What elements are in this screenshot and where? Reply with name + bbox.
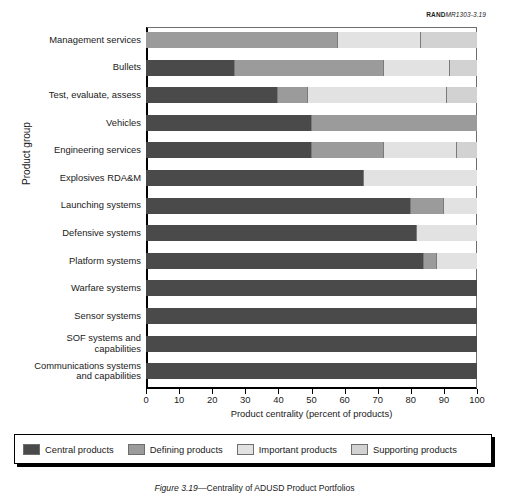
legend-item[interactable]: Important products bbox=[237, 444, 337, 455]
bar-segment-defining bbox=[235, 60, 384, 76]
bar-segment-important bbox=[364, 170, 477, 186]
bar-segment-supporting bbox=[457, 142, 477, 158]
figure-caption-label: Figure 3.19 bbox=[154, 483, 197, 493]
legend-swatch-central bbox=[23, 444, 40, 455]
y-axis-tick-label: SOF systems andcapabilities bbox=[0, 333, 146, 354]
bar-segment-central bbox=[146, 280, 477, 296]
bar-segment-central bbox=[146, 308, 477, 324]
legend-item[interactable]: Defining products bbox=[128, 444, 223, 455]
y-axis-tick-label: Platform systems bbox=[0, 256, 146, 267]
bar-segment-defining bbox=[312, 142, 385, 158]
bar-segment-supporting bbox=[450, 60, 476, 76]
legend-label: Supporting products bbox=[373, 444, 457, 455]
bar-row bbox=[146, 198, 477, 214]
x-axis-tick-label: 50 bbox=[306, 394, 316, 405]
y-axis-tick-label: Communications systemsand capabilities bbox=[0, 361, 146, 382]
x-axis-tick-label: 80 bbox=[406, 394, 416, 405]
bar-segment-central bbox=[146, 253, 424, 269]
legend-label: Important products bbox=[259, 444, 337, 455]
x-axis-tick-label: 90 bbox=[439, 394, 449, 405]
legend-item[interactable]: Supporting products bbox=[351, 444, 457, 455]
bar-segment-central bbox=[146, 363, 477, 379]
bar-row bbox=[146, 60, 477, 76]
bar-segment-central bbox=[146, 170, 364, 186]
bar-row bbox=[146, 253, 477, 269]
bar-segment-defining bbox=[146, 32, 338, 48]
bar-segment-important bbox=[384, 60, 450, 76]
bar-segment-important bbox=[417, 225, 477, 241]
x-axis-tick-label: 70 bbox=[372, 394, 382, 405]
figure-identifier-number: MR1303-3.19 bbox=[446, 11, 486, 18]
bar-row bbox=[146, 115, 477, 131]
x-axis-tick-labels: 0102030405060708090100 bbox=[146, 394, 477, 408]
figure-caption: Figure 3.19—Centrality of ADUSD Product … bbox=[0, 483, 509, 493]
x-axis-tick-label: 100 bbox=[469, 394, 485, 405]
figure-caption-sep: — bbox=[198, 483, 207, 493]
bar-segment-important bbox=[444, 198, 477, 214]
bar-row bbox=[146, 280, 477, 296]
legend-label: Central products bbox=[45, 444, 114, 455]
bar-segment-supporting bbox=[421, 32, 477, 48]
bar-segment-central bbox=[146, 60, 235, 76]
y-axis-tick-labels: Management servicesBulletsTest, evaluate… bbox=[0, 0, 141, 400]
bar-segment-central bbox=[146, 225, 417, 241]
y-axis-tick-label: Vehicles bbox=[0, 118, 146, 129]
bar-row bbox=[146, 32, 477, 48]
y-axis-tick-label: Defensive systems bbox=[0, 228, 146, 239]
bar-segment-central bbox=[146, 87, 278, 103]
figure-identifier-brand: RAND bbox=[426, 11, 445, 18]
bar-segment-important bbox=[384, 142, 457, 158]
figure-caption-text: Centrality of ADUSD Product Portfolios bbox=[207, 483, 355, 493]
y-axis-tick-label: Bullets bbox=[0, 62, 146, 73]
x-axis-tick-label: 10 bbox=[174, 394, 184, 405]
bar-row bbox=[146, 225, 477, 241]
bar-row bbox=[146, 142, 477, 158]
y-axis-tick-label: Test, evaluate, assess bbox=[0, 90, 146, 101]
bar-segment-defining bbox=[411, 198, 444, 214]
chart-legend: Central productsDefining productsImporta… bbox=[14, 434, 492, 464]
y-axis-tick-label: Engineering services bbox=[0, 145, 146, 156]
y-axis-tick-label: Warfare systems bbox=[0, 283, 146, 294]
y-axis-tick-label: Management services bbox=[0, 35, 146, 46]
legend-swatch-defining bbox=[128, 444, 145, 455]
x-axis-tick-label: 20 bbox=[207, 394, 217, 405]
x-axis-title: Product centrality (percent of products) bbox=[146, 408, 477, 419]
bar-row bbox=[146, 336, 477, 352]
bar-rows bbox=[146, 27, 477, 388]
bar-row bbox=[146, 87, 477, 103]
bar-segment-central bbox=[146, 198, 411, 214]
legend-label: Defining products bbox=[150, 444, 223, 455]
x-axis-tick-label: 40 bbox=[273, 394, 283, 405]
bar-segment-central bbox=[146, 142, 312, 158]
bar-row bbox=[146, 170, 477, 186]
y-axis-tick-label: Explosives RDA&M bbox=[0, 173, 146, 184]
legend-item[interactable]: Central products bbox=[23, 444, 114, 455]
y-axis-tick-label: Sensor systems bbox=[0, 311, 146, 322]
legend-swatch-supporting bbox=[351, 444, 368, 455]
x-axis-tick-label: 0 bbox=[143, 394, 148, 405]
bar-segment-defining bbox=[278, 87, 308, 103]
y-axis-tick-label: Launching systems bbox=[0, 200, 146, 211]
bar-segment-important bbox=[308, 87, 447, 103]
bar-segment-important bbox=[437, 253, 477, 269]
bar-segment-central bbox=[146, 336, 477, 352]
x-axis-tick-label: 60 bbox=[339, 394, 349, 405]
bar-segment-defining bbox=[424, 253, 437, 269]
legend-swatch-important bbox=[237, 444, 254, 455]
bar-row bbox=[146, 363, 477, 379]
bar-segment-defining bbox=[312, 115, 478, 131]
bar-segment-central bbox=[146, 115, 312, 131]
bar-segment-important bbox=[338, 32, 421, 48]
x-axis-tick-label: 30 bbox=[240, 394, 250, 405]
bar-row bbox=[146, 308, 477, 324]
bar-segment-supporting bbox=[447, 87, 477, 103]
